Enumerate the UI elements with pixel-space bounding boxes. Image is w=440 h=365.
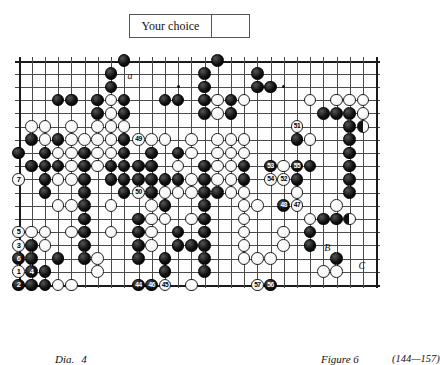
stone-black[interactable] <box>39 279 52 292</box>
stone-white[interactable] <box>105 94 118 107</box>
stone-half[interactable] <box>343 213 356 226</box>
stone-white[interactable] <box>65 147 78 160</box>
stone-black[interactable] <box>78 199 91 212</box>
stone-white[interactable] <box>185 213 198 226</box>
stone-black[interactable] <box>159 173 172 186</box>
stone-black[interactable] <box>118 133 131 146</box>
stone-white[interactable] <box>91 147 104 160</box>
stone-white[interactable] <box>211 160 224 173</box>
stone-black[interactable] <box>225 107 238 120</box>
stone-black-56[interactable]: 56 <box>264 279 277 292</box>
stone-white[interactable] <box>91 252 104 265</box>
stone-white[interactable] <box>105 226 118 239</box>
stone-white[interactable] <box>185 133 198 146</box>
stone-black[interactable] <box>39 173 52 186</box>
stone-black[interactable] <box>39 147 52 160</box>
stone-black[interactable] <box>118 147 131 160</box>
stone-half[interactable] <box>357 120 370 133</box>
stone-black[interactable] <box>118 54 131 67</box>
stone-white[interactable] <box>304 213 317 226</box>
stone-black[interactable] <box>343 107 356 120</box>
stone-black[interactable] <box>25 252 38 265</box>
stone-white[interactable] <box>185 173 198 186</box>
stone-black[interactable] <box>343 186 356 199</box>
stone-white[interactable] <box>52 173 65 186</box>
stone-white[interactable] <box>238 213 251 226</box>
stone-black[interactable] <box>78 239 91 252</box>
stone-black[interactable] <box>52 160 65 173</box>
stone-white[interactable] <box>291 186 304 199</box>
stone-black[interactable] <box>39 160 52 173</box>
stone-white[interactable] <box>65 133 78 146</box>
stone-black[interactable] <box>172 173 185 186</box>
stone-white[interactable] <box>172 160 185 173</box>
stone-white-3[interactable]: 3 <box>12 239 25 252</box>
stone-white[interactable] <box>185 279 198 292</box>
stone-white[interactable] <box>277 239 290 252</box>
stone-black[interactable] <box>172 239 185 252</box>
stone-black[interactable] <box>225 94 238 107</box>
stone-black[interactable] <box>145 186 158 199</box>
stone-white[interactable] <box>251 199 264 212</box>
stone-black[interactable] <box>39 265 52 278</box>
stone-white[interactable] <box>211 94 224 107</box>
stone-black[interactable] <box>343 160 356 173</box>
stone-black[interactable] <box>132 226 145 239</box>
stone-black-48[interactable]: 48 <box>277 199 290 212</box>
stone-white-54[interactable]: 54 <box>264 173 277 186</box>
stone-black[interactable] <box>105 160 118 173</box>
stone-black[interactable] <box>159 265 172 278</box>
stone-black-4[interactable]: 4 <box>25 265 38 278</box>
stone-black[interactable] <box>198 94 211 107</box>
stone-black-55[interactable]: 55 <box>291 160 304 173</box>
stone-black[interactable] <box>304 160 317 173</box>
stone-black[interactable] <box>78 160 91 173</box>
stone-black[interactable] <box>304 226 317 239</box>
stone-white[interactable] <box>145 226 158 239</box>
stone-white[interactable] <box>211 133 224 146</box>
stone-black[interactable] <box>330 107 343 120</box>
stone-black[interactable] <box>145 173 158 186</box>
stone-black[interactable] <box>52 252 65 265</box>
stone-white[interactable] <box>52 199 65 212</box>
stone-black[interactable] <box>118 173 131 186</box>
stone-black[interactable] <box>172 94 185 107</box>
stone-black[interactable] <box>317 213 330 226</box>
stone-white[interactable] <box>39 226 52 239</box>
stone-white[interactable] <box>238 147 251 160</box>
stone-white-7[interactable]: 7 <box>12 173 25 186</box>
stone-black[interactable] <box>25 279 38 292</box>
stone-white[interactable] <box>105 120 118 133</box>
stone-black[interactable] <box>185 239 198 252</box>
stone-white[interactable] <box>91 160 104 173</box>
stone-black[interactable] <box>343 120 356 133</box>
stone-white[interactable] <box>65 279 78 292</box>
stone-white[interactable] <box>185 186 198 199</box>
stone-black-44[interactable]: 44 <box>132 279 145 292</box>
stone-black[interactable] <box>343 133 356 146</box>
stone-black[interactable] <box>25 133 38 146</box>
stone-white[interactable] <box>357 94 370 107</box>
stone-white[interactable] <box>264 252 277 265</box>
stone-black[interactable] <box>118 107 131 120</box>
stone-white[interactable] <box>25 120 38 133</box>
stone-white[interactable] <box>330 265 343 278</box>
stone-white[interactable] <box>304 133 317 146</box>
stone-black[interactable] <box>304 239 317 252</box>
stone-black[interactable] <box>132 252 145 265</box>
stone-white[interactable] <box>277 226 290 239</box>
stone-black[interactable] <box>132 239 145 252</box>
stone-white-50[interactable]: 50 <box>132 186 145 199</box>
stone-black[interactable] <box>198 199 211 212</box>
stone-black[interactable] <box>78 226 91 239</box>
stone-white[interactable] <box>52 147 65 160</box>
stone-black[interactable] <box>211 54 224 67</box>
stone-black[interactable] <box>78 213 91 226</box>
stone-white[interactable] <box>211 173 224 186</box>
stone-white[interactable] <box>105 133 118 146</box>
stone-white-52[interactable]: 52 <box>277 173 290 186</box>
stone-white[interactable] <box>145 239 158 252</box>
stone-white[interactable] <box>105 107 118 120</box>
stone-white[interactable] <box>65 199 78 212</box>
stone-white[interactable] <box>65 120 78 133</box>
